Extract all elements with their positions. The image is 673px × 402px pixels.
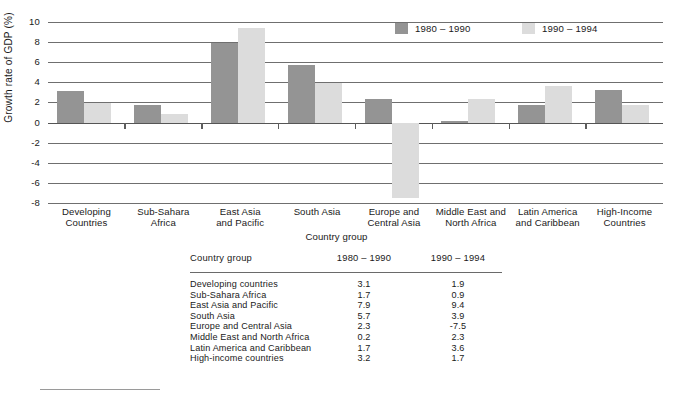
y-axis-ticks: 1086420-2-4-6-8 xyxy=(0,22,40,203)
legend-item[interactable]: 1980 – 1990 xyxy=(395,21,471,35)
x-tick-label-line: High-Income xyxy=(576,206,673,217)
table-cell-1980-1990: 0.2 xyxy=(322,332,406,343)
table-cell-group: South Asia xyxy=(190,311,235,322)
table-row: Middle East and North Africa0.22.3 xyxy=(190,332,502,343)
table-cell-1980-1990: 1.7 xyxy=(322,290,406,301)
group-tick xyxy=(585,123,587,129)
y-tick-label: -6 xyxy=(6,178,40,188)
bar xyxy=(57,91,84,122)
table-row: Developing countries3.11.9 xyxy=(190,279,502,290)
y-tick-label: 10 xyxy=(6,17,40,27)
y-tick-label: 8 xyxy=(6,37,40,47)
table-cell-1990-1994: 3.9 xyxy=(414,311,502,322)
group-tick xyxy=(201,123,203,129)
table-row: East Asia and Pacific7.99.4 xyxy=(190,300,502,311)
group-tick xyxy=(278,123,280,129)
legend-swatch-icon xyxy=(522,23,535,34)
table-cell-1980-1990: 5.7 xyxy=(322,311,406,322)
y-tick-label: -8 xyxy=(6,198,40,208)
group-tick xyxy=(124,123,126,129)
bar xyxy=(134,105,161,122)
table-row: Sub-Sahara Africa1.70.9 xyxy=(190,290,502,301)
plot-area xyxy=(48,22,663,203)
x-tick-label: High-IncomeCountries xyxy=(576,206,673,229)
table-cell-group: Latin America and Caribbean xyxy=(190,343,311,354)
bar xyxy=(238,28,265,123)
table-cell-group: Developing countries xyxy=(190,279,278,290)
table-row: Europe and Central Asia2.3-7.5 xyxy=(190,321,502,332)
table-cell-1980-1990: 3.2 xyxy=(322,353,406,364)
bar xyxy=(161,114,188,123)
table-cell-1990-1994: -7.5 xyxy=(414,321,502,332)
y-tick-label: 6 xyxy=(6,57,40,67)
table-cell-1990-1994: 1.9 xyxy=(414,279,502,290)
bar-series-group xyxy=(48,22,663,203)
table-row: Latin America and Caribbean1.73.6 xyxy=(190,343,502,354)
bar xyxy=(315,83,342,122)
table-header-row: Country group 1980 – 1990 1990 – 1994 xyxy=(190,252,502,272)
table-cell-1990-1994: 3.6 xyxy=(414,343,502,354)
bar xyxy=(392,123,419,198)
table-cell-group: Sub-Sahara Africa xyxy=(190,290,266,301)
group-tick xyxy=(509,123,511,129)
gridline xyxy=(48,203,663,204)
bar xyxy=(441,121,468,123)
y-tick-label: -2 xyxy=(6,138,40,148)
legend-item[interactable]: 1990 – 1994 xyxy=(522,21,598,35)
legend-label: 1980 – 1990 xyxy=(415,23,471,34)
x-tick-label-line: Countries xyxy=(576,217,673,228)
bar xyxy=(211,43,238,122)
bar xyxy=(84,103,111,122)
table-cell-1990-1994: 9.4 xyxy=(414,300,502,311)
group-tick xyxy=(432,123,434,129)
table-cell-group: Europe and Central Asia xyxy=(190,321,292,332)
bar xyxy=(622,105,649,122)
x-axis-title: Country group xyxy=(0,231,673,242)
bar-chart: Growth rate of GDP (%) 1086420-2-4-6-8 D… xyxy=(0,0,673,250)
table-cell-1980-1990: 7.9 xyxy=(322,300,406,311)
table-row: South Asia5.73.9 xyxy=(190,311,502,322)
y-tick-label: 4 xyxy=(6,77,40,87)
table-cell-1980-1990: 3.1 xyxy=(322,279,406,290)
y-tick-label: -4 xyxy=(6,158,40,168)
table-cell-1980-1990: 2.3 xyxy=(322,321,406,332)
bar xyxy=(595,90,622,122)
table-cell-1980-1990: 1.7 xyxy=(322,343,406,354)
table-cell-1990-1994: 1.7 xyxy=(414,353,502,364)
y-tick-label: 2 xyxy=(6,97,40,107)
table-cell-group: East Asia and Pacific xyxy=(190,300,278,311)
bar xyxy=(518,105,545,122)
bar xyxy=(468,99,495,122)
legend-label: 1990 – 1994 xyxy=(542,23,598,34)
table-cell-1990-1994: 2.3 xyxy=(414,332,502,343)
table-cell-group: High-income countries xyxy=(190,353,284,364)
table-row: High-income countries3.21.7 xyxy=(190,353,502,364)
bar xyxy=(545,86,572,122)
table-header-country-group: Country group xyxy=(190,252,252,263)
y-tick-label: 0 xyxy=(6,118,40,128)
x-tick-label-line: and Pacific xyxy=(192,217,289,228)
group-tick xyxy=(355,123,357,129)
gdp-growth-figure: Growth rate of GDP (%) 1086420-2-4-6-8 D… xyxy=(0,0,673,402)
data-table: Country group 1980 – 1990 1990 – 1994 De… xyxy=(190,252,502,272)
table-header-1990-1994: 1990 – 1994 xyxy=(414,252,502,263)
table-cell-group: Middle East and North Africa xyxy=(190,332,309,343)
table-body: Developing countries3.11.9Sub-Sahara Afr… xyxy=(190,279,502,364)
bar xyxy=(365,99,392,122)
table-header-rule xyxy=(190,272,502,273)
footnote-rule xyxy=(40,389,160,390)
bar xyxy=(288,65,315,122)
legend-swatch-icon xyxy=(395,23,408,34)
table-header-1980-1990: 1980 – 1990 xyxy=(322,252,406,263)
table-cell-1990-1994: 0.9 xyxy=(414,290,502,301)
